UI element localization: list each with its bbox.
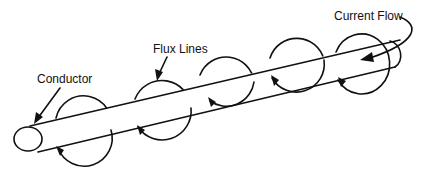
conductor-label: Conductor	[37, 72, 92, 86]
diagram-canvas: Conductor Flux Lines Current Flow	[0, 0, 431, 170]
flux-loop-4	[270, 38, 324, 60]
conductor	[14, 40, 401, 152]
conductor-end-cap	[14, 127, 42, 151]
flux-lines-label: Flux Lines	[153, 42, 208, 56]
current-flow-label: Current Flow	[334, 9, 403, 23]
flux-lines-pointer	[155, 57, 167, 81]
pointer-arrow-icon	[155, 69, 163, 81]
